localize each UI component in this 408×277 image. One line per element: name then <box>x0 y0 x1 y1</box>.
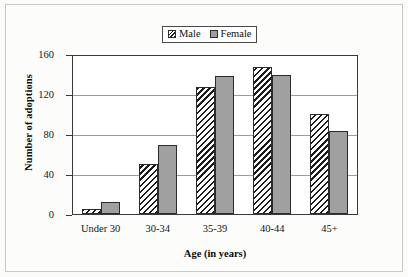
y-tick-label-80: 80 <box>44 130 55 140</box>
hatched-swatch-icon <box>168 30 176 38</box>
plot-area <box>72 55 358 215</box>
x-tick-label-30-34: 30-34 <box>129 223 186 234</box>
bar-group-35-39 <box>187 56 244 214</box>
x-tick-label-under-30: Under 30 <box>72 223 129 234</box>
bar-group-under-30 <box>73 56 130 214</box>
legend-entry-female: Female <box>210 28 252 40</box>
bar-male-40-44 <box>253 67 272 214</box>
bar-female-40-44 <box>272 75 291 214</box>
bar-male-30-34 <box>139 164 158 214</box>
bar-female-under-30 <box>101 202 120 214</box>
bar-male-under-30 <box>82 209 101 214</box>
bar-group-45-plus <box>300 56 357 214</box>
solid-gray-swatch-icon <box>210 30 218 38</box>
x-tick-labels: Under 30 30-34 35-39 40-44 45+ <box>72 223 358 234</box>
bar-group-40-44 <box>243 56 300 214</box>
legend-label-female: Female <box>221 28 252 40</box>
bar-female-30-34 <box>158 145 177 214</box>
bars-layer <box>73 56 357 214</box>
y-tick-label-0: 0 <box>49 210 54 220</box>
x-axis-title: Age (in years) <box>72 248 358 259</box>
y-tick-label-160: 160 <box>38 50 54 60</box>
y-axis-title: Number of adoptions <box>23 63 34 183</box>
bar-female-45-plus <box>329 131 348 214</box>
legend-label-male: Male <box>179 28 201 40</box>
y-tick-label-40: 40 <box>44 170 55 180</box>
x-tick-label-45-plus: 45+ <box>301 223 358 234</box>
bar-male-45-plus <box>310 114 329 214</box>
x-tick-label-35-39: 35-39 <box>186 223 243 234</box>
bar-male-35-39 <box>196 87 215 214</box>
chart-page: Male Female Number of adoptions 160 120 … <box>0 0 408 277</box>
chart-legend: Male Female <box>162 26 257 43</box>
figure-frame: Male Female Number of adoptions 160 120 … <box>5 4 403 272</box>
x-tick-label-40-44: 40-44 <box>244 223 301 234</box>
bar-group-30-34 <box>130 56 187 214</box>
bar-female-35-39 <box>215 76 234 214</box>
legend-entry-male: Male <box>168 28 201 40</box>
y-tick-mark-0 <box>66 215 72 216</box>
y-tick-label-120: 120 <box>38 90 54 100</box>
